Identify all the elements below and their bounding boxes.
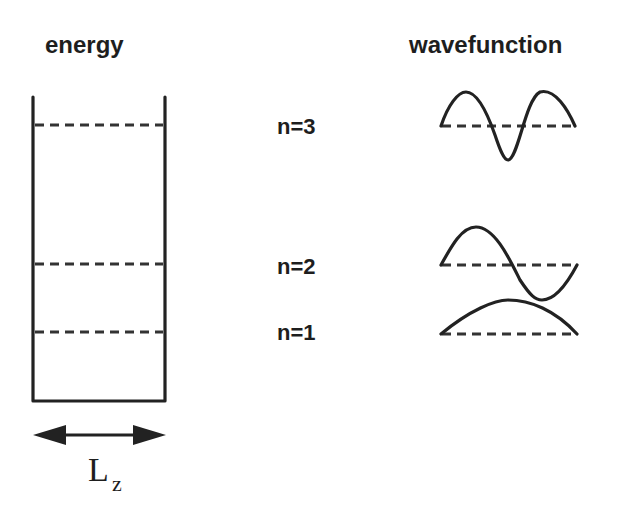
wavefunction-n2 bbox=[441, 227, 577, 300]
wavefunction-heading: wavefunction bbox=[408, 31, 562, 58]
level-label-n3: n=3 bbox=[277, 114, 316, 139]
quantum-well-diagram: energy wavefunction L z n=3 n=2 n=1 bbox=[0, 0, 644, 513]
arrow-head-left-icon bbox=[33, 425, 66, 445]
well-walls bbox=[33, 97, 165, 401]
level-label-n2: n=2 bbox=[277, 254, 316, 279]
level-label-n1: n=1 bbox=[277, 320, 316, 345]
wave-curve-n1 bbox=[441, 300, 577, 334]
arrow-head-right-icon bbox=[133, 425, 166, 445]
wavefunction-n1 bbox=[441, 300, 577, 334]
wavefunction-n3 bbox=[441, 92, 575, 160]
width-arrow bbox=[33, 425, 166, 445]
width-label: L bbox=[88, 451, 109, 488]
energy-heading: energy bbox=[45, 31, 124, 58]
width-label-subscript: z bbox=[112, 471, 122, 496]
potential-well bbox=[33, 97, 165, 401]
